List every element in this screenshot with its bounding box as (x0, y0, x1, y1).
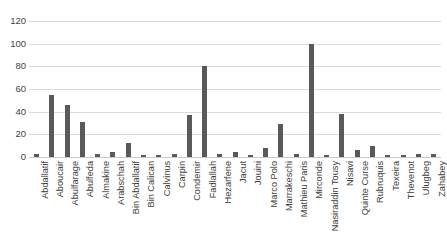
bar-slot (212, 21, 227, 157)
bar-slot (304, 21, 319, 157)
x-axis-slot: Rubruquis (365, 159, 380, 246)
bar-slot (258, 21, 273, 157)
x-axis-slot: Bin Calican (136, 159, 151, 246)
bar-slot (243, 21, 258, 157)
bar-slot (411, 21, 426, 157)
bar-slot (273, 21, 288, 157)
bar (309, 44, 314, 157)
y-axis-tick-label: 0 (0, 152, 26, 162)
bar-slot (426, 21, 441, 157)
bar-slot (75, 21, 90, 157)
x-axis-slot: Fadlallah (197, 159, 212, 246)
x-axis-slot: Bin Abdallatif (121, 159, 136, 246)
bar-slot (166, 21, 181, 157)
x-axis-slot: Arabschah (105, 159, 120, 246)
bar (110, 152, 115, 157)
bar-slot (182, 21, 197, 157)
bar (248, 155, 253, 157)
x-axis-slot: Quinte Curse (350, 159, 365, 246)
bar-slot (227, 21, 242, 157)
bar-slot (319, 21, 334, 157)
bar (339, 114, 344, 157)
x-axis-slot: Aboucair (44, 159, 59, 246)
bar-slot (365, 21, 380, 157)
y-axis-tick-label: 60 (0, 84, 26, 94)
gridline (29, 157, 441, 158)
x-axis-slot: Texeira (380, 159, 395, 246)
bar (156, 155, 161, 157)
bar (431, 154, 436, 157)
x-axis-slot: Calvinus (151, 159, 166, 246)
bar (401, 155, 406, 157)
bar (34, 154, 39, 157)
bar (126, 143, 131, 157)
x-axis-slot: Mathieu Paris (289, 159, 304, 246)
bar-slot (289, 21, 304, 157)
x-axis: AbdallatifAboucairAbulfarageAbulfedaAlma… (29, 159, 441, 246)
y-axis-tick-label: 100 (0, 39, 26, 49)
bar (80, 122, 85, 157)
plot-area (29, 21, 441, 157)
bar (233, 152, 238, 157)
bar-slot (350, 21, 365, 157)
x-axis-slot: Carpin (166, 159, 181, 246)
bar (202, 66, 207, 157)
bar-slot (90, 21, 105, 157)
bar (324, 155, 329, 157)
bar-slot (136, 21, 151, 157)
x-axis-slot: Condemir (182, 159, 197, 246)
bar-slot (197, 21, 212, 157)
bar (416, 154, 421, 157)
bar (217, 154, 222, 157)
x-axis-slot: Almakine (90, 159, 105, 246)
x-axis-tick-label: Zahabey (438, 161, 447, 197)
y-axis-tick-label: 120 (0, 16, 26, 26)
bar (172, 154, 177, 157)
bar-slot (380, 21, 395, 157)
bar (95, 154, 100, 157)
bar-slot (151, 21, 166, 157)
x-axis-slot: Nisavi (334, 159, 349, 246)
x-axis-slot: Nasiraddin Tousy (319, 159, 334, 246)
bar (65, 105, 70, 157)
y-axis-tick-label: 40 (0, 107, 26, 117)
x-axis-slot: Mirconde (304, 159, 319, 246)
bar-series (29, 21, 441, 157)
bar-slot (395, 21, 410, 157)
bar-slot (60, 21, 75, 157)
x-axis-slot: Abulfarage (60, 159, 75, 246)
bar (187, 115, 192, 157)
bar (385, 155, 390, 157)
x-axis-slot: Hezarfene (212, 159, 227, 246)
bar (49, 95, 54, 157)
x-axis-slot: Jouini (243, 159, 258, 246)
bar (294, 154, 299, 157)
x-axis-slot: Abdallatif (29, 159, 44, 246)
x-axis-slot: Marco Polo (258, 159, 273, 246)
bar (263, 148, 268, 157)
x-axis-slot: Thevenot (395, 159, 410, 246)
bar (370, 146, 375, 157)
bar-slot (29, 21, 44, 157)
y-axis-tick-label: 20 (0, 130, 26, 140)
bar (141, 155, 146, 157)
bar-slot (121, 21, 136, 157)
x-axis-slot: Ulugbeg (411, 159, 426, 246)
x-axis-slot: Abulfeda (75, 159, 90, 246)
x-axis-slot: Marrakeschi (273, 159, 288, 246)
bar-slot (334, 21, 349, 157)
bar-slot (44, 21, 59, 157)
bar-slot (105, 21, 120, 157)
bar (278, 124, 283, 157)
x-axis-slot: Jacut (227, 159, 242, 246)
y-axis: 020406080100120 (0, 21, 26, 157)
bar (355, 150, 360, 157)
x-axis-slot: Zahabey (426, 159, 441, 246)
y-axis-tick-label: 80 (0, 62, 26, 72)
